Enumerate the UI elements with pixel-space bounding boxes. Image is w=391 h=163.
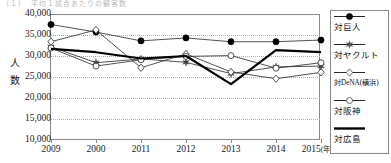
y-axis-ticks: 40,00035,00030,00025,00020,00015,00010,0… [2,14,51,139]
legend-label: 対阪神 [331,106,388,116]
data-point-open-circle [318,60,324,66]
legend-label: 対DeNA(横浜) [331,78,388,88]
data-point-filled-circle [138,38,144,44]
data-point-open-diamond [318,69,324,76]
data-point-open-diamond [346,69,352,76]
legend-marker-none-icon [331,123,388,134]
data-point-open-circle [273,65,279,71]
legend-marker-open-diamond-icon [331,67,388,78]
legend-label: 対広島 [331,134,388,144]
y-axis-tick-label: 35,000 [7,30,51,40]
legend-item-4[interactable]: 対広島 [331,123,388,151]
x-axis-tick-mark [51,139,52,143]
legend-item-3[interactable]: 対阪神 [331,95,388,123]
x-axis-tick-mark [321,139,322,143]
x-axis-tick-mark [96,139,97,143]
x-axis-tick-label: 2014 [267,144,286,154]
chart-figure: （１） 平均１試合あたりの観客数 人数 40,00035,00030,00025… [0,0,391,163]
y-axis-tick-label: 15,000 [7,114,51,124]
y-axis-tick-label: 30,000 [7,51,51,61]
data-point-open-circle [93,63,99,69]
y-axis-tick-label: 40,000 [7,9,51,19]
x-axis-tick-label: 2013 [222,144,241,154]
data-point-filled-circle [48,21,54,27]
data-point-open-circle [228,53,234,59]
series-lines [51,14,321,140]
x-axis-tick-mark [276,139,277,143]
x-axis-tick-label: 2011 [132,144,151,154]
data-point-filled-circle [346,13,352,19]
x-axis-tick-label: 2015(年) [302,144,333,155]
y-axis-tick-label: 25,000 [7,72,51,82]
data-point-open-circle [347,98,353,104]
legend-item-2[interactable]: 対DeNA(横浜) [331,67,388,95]
x-axis-tick-label: 2009 [42,144,61,154]
x-axis-tick-mark [141,139,142,143]
legend-label: 対巨人 [331,22,388,32]
data-point-filled-circle [273,39,279,45]
legend-marker-open-circle-icon [331,95,388,106]
data-point-filled-circle [318,37,324,43]
legend-label: 対ヤクルト [331,50,388,60]
plot-area: 40,00035,00030,00025,00020,00015,00010,0… [50,14,320,140]
legend-item-0[interactable]: 対巨人 [331,11,388,39]
legend-marker-star-icon [331,39,388,50]
legend: 対巨人対ヤクルト対DeNA(横浜)対阪神対広島 [330,10,389,154]
data-point-filled-circle [228,39,234,45]
x-axis-tick-label: 2012 [177,144,196,154]
data-point-filled-circle [183,35,189,41]
data-point-open-diamond [138,64,144,71]
data-point-open-diamond [273,75,279,82]
legend-item-1[interactable]: 対ヤクルト [331,39,388,67]
cropped-title: （１） 平均１試合あたりの観客数 [2,0,202,7]
y-axis-tick-label: 20,000 [7,93,51,103]
x-axis-tick-mark [231,139,232,143]
x-axis-tick-mark [186,139,187,143]
legend-marker-filled-circle-icon [331,11,388,22]
x-axis-tick-label: 2000 [87,144,106,154]
